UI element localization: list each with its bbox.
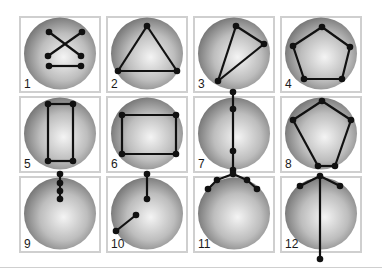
panel-number: 10	[111, 238, 124, 250]
panel-number: 6	[111, 158, 118, 170]
sphere-graph-icon	[21, 178, 99, 251]
panel-number: 1	[24, 78, 31, 90]
diagram-panel-3: 3	[193, 16, 275, 93]
sphere-graph-icon	[21, 18, 99, 91]
sphere-graph-icon	[282, 18, 360, 91]
sphere-graph-icon	[108, 18, 186, 91]
diagram-panel-9: 9	[19, 176, 101, 253]
sphere-graph-icon	[195, 18, 273, 91]
diagram-panel-10: 10	[106, 176, 188, 253]
sphere-graph-icon	[282, 98, 360, 171]
panel-number: 4	[285, 78, 292, 90]
panel-number: 2	[111, 78, 118, 90]
bottom-divider	[0, 267, 382, 268]
diagram-panel-12: 12	[280, 176, 362, 253]
diagram-panel-11: 11	[193, 176, 275, 253]
sphere-graph-icon	[108, 98, 186, 171]
diagram-panel-5: 5	[19, 96, 101, 173]
panel-number: 12	[285, 238, 298, 250]
panel-number: 9	[24, 238, 31, 250]
diagram-panel-8: 8	[280, 96, 362, 173]
diagram-panel-1: 1	[19, 16, 101, 93]
panel-number: 3	[198, 78, 205, 90]
panel-number: 11	[198, 238, 210, 250]
diagram-panel-2: 2	[106, 16, 188, 93]
sphere-graph-icon	[21, 98, 99, 171]
diagram-panel-7: 7	[193, 96, 275, 173]
panel-number: 8	[285, 158, 292, 170]
diagram-panel-6: 6	[106, 96, 188, 173]
diagram-panel-4: 4	[280, 16, 362, 93]
panel-number: 7	[198, 158, 205, 170]
panel-number: 5	[24, 158, 31, 170]
sphere-graph-icon	[195, 98, 273, 171]
